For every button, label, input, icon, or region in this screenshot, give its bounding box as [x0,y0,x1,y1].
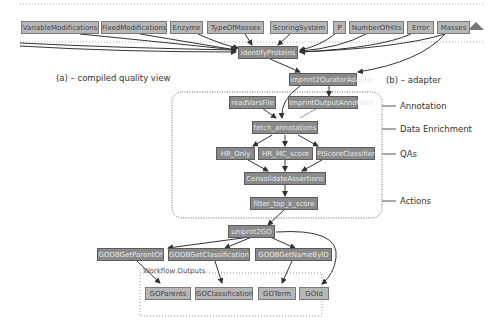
processor-pi-score-classifier[interactable]: PIScoreClassifier [316,147,375,160]
processor-godb-get-classification[interactable]: GODBGetClassification [168,248,250,261]
output-go-id[interactable]: GOId [299,287,329,300]
input-enzyme[interactable]: Enzyme [170,21,203,34]
input-scoring-system[interactable]: ScoringSystem [270,21,328,34]
layer-actions: Actions [400,196,431,206]
input-type-of-masses[interactable]: TypeOfMasses [207,21,264,34]
processor-read-vars-file[interactable]: readVarsFile [229,96,276,109]
input-number-of-hits[interactable]: NumberOfHits [349,21,404,34]
layer-qas: QAs [400,149,417,159]
processor-consolidate-assertions[interactable]: ConsolidateAssertions [244,172,326,185]
label-adapter: (b) – adapter [386,75,441,85]
processor-identify-proteins[interactable]: identifyProteins [238,46,298,59]
processor-hr-only[interactable]: HR_Only [216,147,255,160]
input-error[interactable]: Error [407,21,434,34]
input-fixed-modifications[interactable]: FixedModifications [101,21,167,34]
processor-godb-get-parent[interactable]: GODBGetParentOf [97,248,164,261]
input-p[interactable]: P [333,21,346,34]
processor-adapter[interactable]: imprint2QuratorAdapter [289,73,357,86]
processor-hr-mc-score[interactable]: HR_MC_score [258,147,313,160]
processor-fetch-annotations[interactable]: fetch_annotations [252,121,318,134]
layer-leaders [382,106,396,201]
layer-annotation: Annotation [400,101,447,111]
input-masses[interactable]: Masses [437,21,470,34]
label-compiled-quality-view: (a) – compiled quality view [56,73,170,83]
processor-godb-get-name[interactable]: GODBGetNameByID [255,248,332,261]
output-go-term[interactable]: GOTerm [258,287,296,300]
output-go-parents[interactable]: GOParents [145,287,191,300]
output-go-classification[interactable]: GOClassification [195,287,253,300]
processor-output-annotator[interactable]: ImprintOutputAnnotator [288,96,358,109]
workflow-outputs-title: Workflow Outputs [143,267,205,275]
collapse-up-icon[interactable] [468,22,484,30]
layer-data-enrichment: Data Enrichment [400,124,472,134]
processor-uniprot2go[interactable]: uniprot2GO [228,225,275,238]
processor-filter-top-k[interactable]: filter_top_k_score [250,197,318,210]
input-variable-modifications[interactable]: VariableModifications [21,21,99,34]
